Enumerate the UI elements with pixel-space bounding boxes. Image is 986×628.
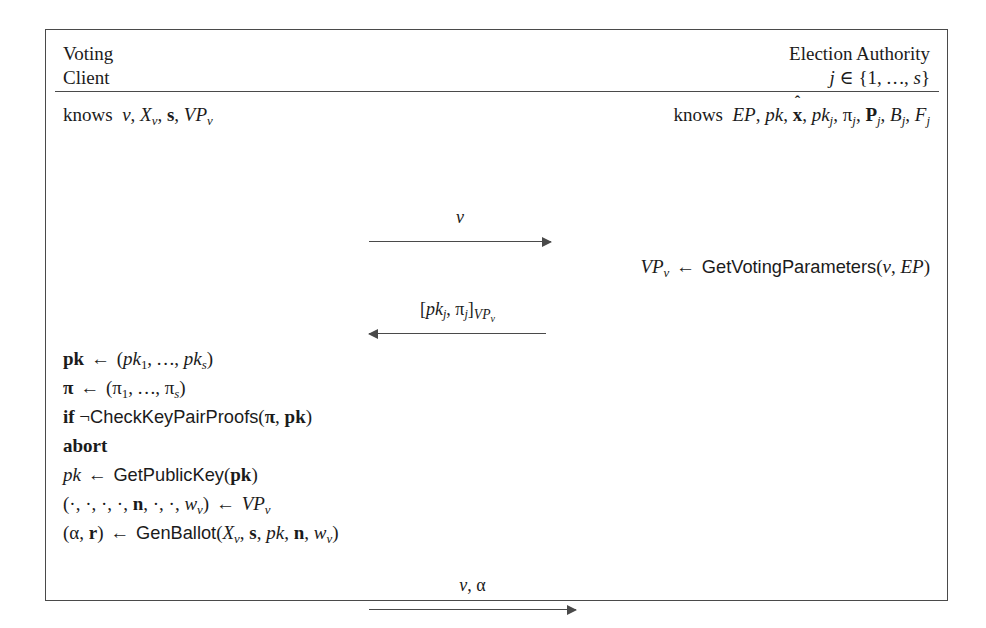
party-left-knows: knows v, Xv, s, VPv — [63, 102, 213, 134]
party-left-name-line1: Voting — [63, 43, 113, 64]
party-right-index-line: j ∈ {1, . . ., s} — [789, 66, 930, 90]
calc-line-abort: abort — [63, 431, 339, 460]
arrowhead-right-icon — [542, 237, 552, 247]
message-arrow-keys: [pkj, πj]VPv — [369, 298, 546, 342]
protocol-diagram-frame: Voting Client Election Authority j ∈ {1,… — [45, 29, 948, 601]
calc-line-collect-pi: π ← (π1, . . ., πs) — [63, 373, 339, 402]
party-right-name-line1: Election Authority — [789, 43, 930, 64]
arrow-line — [369, 241, 551, 242]
knows-label-right: knows — [673, 104, 723, 125]
calc-line-destructure-vp: (·, ·, ·, ·, n, ·, ·, wv) ← VPv — [63, 489, 339, 518]
calc-line-check-key-proofs: if ¬CheckKeyPairProofs(π, pk) — [63, 402, 339, 431]
knows-items-left: v, Xv, s, VPv — [117, 104, 212, 125]
calc-line-collect-pk: pk ← (pk1, . . ., pks) — [63, 344, 339, 373]
message-label-ballot: v, α — [369, 574, 576, 596]
arrow-line — [369, 333, 546, 334]
arrow-line — [369, 609, 576, 610]
party-header-row: Voting Client Election Authority j ∈ {1,… — [46, 30, 947, 91]
calc-line-get-public-key: pk ← GetPublicKey(pk) — [63, 460, 339, 489]
knows-items-right: EP, pk, ̂x, pkj, πj, Pj, Bj, Fj — [728, 104, 930, 125]
party-right-title: Election Authority j ∈ {1, . . ., s} — [789, 42, 930, 90]
ea-computation-block: VPv ← GetVotingParameters(v, EP) — [640, 252, 930, 281]
abort-keyword: abort — [63, 435, 107, 456]
knows-label-left: knows — [63, 104, 113, 125]
message-label-vote: v — [369, 206, 551, 228]
message-arrow-ballot: v, α — [369, 574, 576, 618]
arrowhead-left-icon — [368, 329, 378, 339]
message-label-keys: [pkj, πj]VPv — [369, 298, 546, 330]
header-divider-rule — [55, 91, 939, 92]
party-left-name-line2: Client — [63, 66, 113, 90]
party-right-knows: knows EP, pk, ̂x, pkj, πj, Pj, Bj, Fj — [673, 102, 930, 134]
message-arrow-vote: v — [369, 206, 551, 250]
client-computation-block: pk ← (pk1, . . ., pks) π ← (π1, . . ., π… — [63, 344, 339, 547]
party-left-title: Voting Client — [63, 42, 113, 90]
arrowhead-right-icon — [567, 605, 577, 615]
calc-line-gen-ballot: (α, r) ← GenBallot(Xv, s, pk, n, wv) — [63, 518, 339, 547]
calc-line-get-voting-parameters: VPv ← GetVotingParameters(v, EP) — [640, 252, 930, 281]
